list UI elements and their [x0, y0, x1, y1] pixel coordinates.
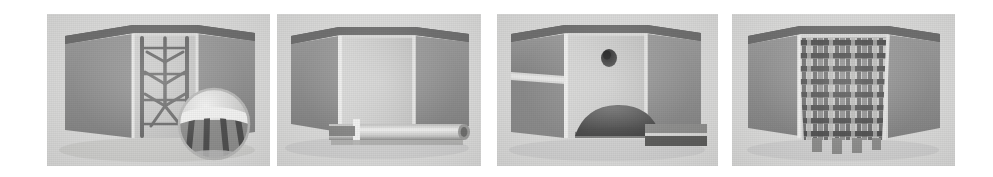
- panel-3-render: [497, 14, 718, 166]
- base-bar: [645, 124, 707, 146]
- figure-panel-3: [497, 14, 718, 166]
- figure-panel-2: [277, 14, 481, 166]
- panel-4-render: [732, 14, 955, 166]
- port-hole: [601, 49, 617, 67]
- panel-1-render: [47, 14, 270, 166]
- periodic-lattice: [792, 36, 896, 142]
- figure-panel-4: [732, 14, 955, 166]
- figure-panel-strip: [0, 0, 993, 177]
- panel-2-render: [277, 14, 481, 166]
- figure-panel-1: [47, 14, 270, 166]
